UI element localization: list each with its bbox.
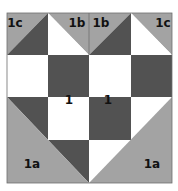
patch-row2-col2-dark [48,55,89,97]
patch-row2-col1-white [7,55,48,97]
label-bottom-left: 1a [24,157,40,171]
label-top-mid-left: 1b [69,16,86,30]
patch-row2-col4-dark [131,55,172,97]
quilt-block-diagram: 1c 1b 1b 1c 1 1 1a 1a [0,0,178,191]
label-center-left: 1 [65,93,73,107]
label-top-mid-right: 1b [93,16,110,30]
label-top-left: 1c [7,16,22,30]
patch-row2-col3-white [89,55,131,97]
label-bottom-right: 1a [144,157,160,171]
label-center-right: 1 [104,93,112,107]
label-top-right: 1c [155,16,170,30]
